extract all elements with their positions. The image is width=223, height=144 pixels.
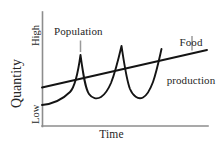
annotation-food-production: Food production: [160, 11, 222, 112]
annotation-food-production-line2: production: [160, 74, 222, 87]
annotation-population: Population: [54, 26, 103, 38]
population-curve: [42, 46, 162, 105]
x-axis-title: Time: [0, 128, 223, 140]
y-axis-title: Quantity: [9, 59, 25, 108]
y-axis-tick-low: Low: [30, 105, 41, 124]
annotation-food-production-line1: Food: [160, 36, 222, 49]
figure-population-food-production: High Low Quantity Time Population Food p…: [0, 0, 223, 144]
y-axis-tick-high: High: [30, 25, 41, 46]
